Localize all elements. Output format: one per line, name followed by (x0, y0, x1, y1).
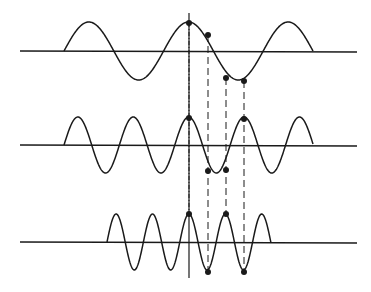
sample-point-1 (186, 20, 192, 26)
sample-point-9 (186, 211, 192, 217)
sample-point-11 (205, 269, 211, 275)
sample-point-5 (186, 115, 192, 121)
sample-point-4 (241, 78, 247, 84)
sample-point-3 (223, 75, 229, 81)
sample-points (186, 20, 247, 275)
guide-lines (189, 23, 244, 272)
sample-point-10 (223, 211, 229, 217)
sample-point-7 (223, 167, 229, 173)
sine-wave-sampling-diagram (0, 0, 371, 292)
sample-point-8 (241, 116, 247, 122)
sample-point-2 (205, 32, 211, 38)
sample-point-12 (241, 269, 247, 275)
sample-point-6 (205, 168, 211, 174)
